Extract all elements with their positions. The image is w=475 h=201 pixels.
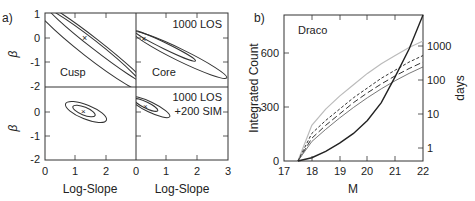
panel-b: 17 18 19 20 21 22 M 0 300 600 Integrated… (247, 15, 467, 196)
svg-text:×: × (81, 107, 86, 116)
cusp-sim-contours: × (63, 97, 109, 126)
ytick-right: 100 (427, 74, 445, 86)
ytick: 0 (34, 32, 40, 44)
chart-title: Draco (298, 24, 327, 36)
xtick: 0 (42, 165, 48, 177)
xtick: 22 (417, 165, 429, 177)
figure: a) 1 0 -1 -2 0 -1 -2 β β 0 1 (0, 0, 475, 201)
core-sim-contours: × (128, 93, 172, 121)
x-axis-label: Log-Slope (63, 182, 118, 196)
ytick: 300 (261, 101, 279, 113)
xtick: 3 (225, 165, 231, 177)
y-axis-label-right: days (453, 75, 467, 100)
ytick: -1 (30, 56, 40, 68)
panel-b-label: b) (254, 11, 265, 25)
ytick: 0 (34, 106, 40, 118)
series-line (298, 15, 423, 161)
xtick: 0 (133, 165, 139, 177)
y-axis-label: Integrated Count (247, 43, 261, 133)
ytick: -2 (30, 153, 40, 165)
xtick: 18 (306, 165, 318, 177)
series-lines (298, 15, 423, 161)
series-line (298, 67, 423, 161)
xtick: 2 (103, 165, 109, 177)
y-axis-label: β (6, 50, 20, 58)
xtick: 19 (334, 165, 346, 177)
ytick-right: 1 (427, 142, 433, 154)
subpanel-label-core: Core (152, 66, 176, 78)
annotation-200-sim: +200 SIM (175, 105, 222, 117)
panel-a: 1 0 -1 -2 0 -1 -2 β β 0 1 2 0 1 2 3 Log-… (6, 0, 231, 196)
xtick: 21 (389, 165, 401, 177)
subpanel-label-cusp: Cusp (60, 66, 86, 78)
xtick: 17 (278, 165, 290, 177)
xtick: 2 (194, 165, 200, 177)
ytick: -1 (30, 130, 40, 142)
x-axis-label: M (348, 182, 358, 196)
cusp-contours: × (28, 0, 153, 99)
svg-text:×: × (143, 102, 148, 111)
x-axis-label: Log-Slope (155, 182, 210, 196)
ytick: 600 (261, 47, 279, 59)
xtick: 20 (361, 165, 373, 177)
panel-a-label: a) (2, 11, 13, 25)
ytick: 0 (273, 155, 279, 167)
svg-text:×: × (141, 34, 146, 44)
svg-text:×: × (82, 33, 87, 43)
annotation-1000-los: 1000 LOS (172, 18, 222, 30)
ytick-right: 1000 (427, 40, 451, 52)
core-contours: × (131, 27, 230, 83)
annotation-1000-los: 1000 LOS (172, 91, 222, 103)
xtick: 1 (163, 165, 169, 177)
ytick: 1 (34, 8, 40, 20)
series-line (298, 62, 423, 161)
ytick: -2 (30, 80, 40, 92)
series-line (298, 56, 423, 161)
xtick: 1 (72, 165, 78, 177)
ytick-right: 10 (427, 108, 439, 120)
y-axis-label: β (6, 124, 20, 132)
